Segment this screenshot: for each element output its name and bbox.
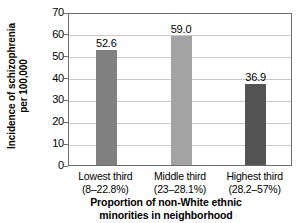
x-axis-category-name: Lowest third (78, 170, 132, 182)
y-axis-tick-mark (64, 122, 68, 123)
x-axis-category-range: (28.2–57%) (210, 183, 300, 196)
y-axis-tick-mark (64, 100, 68, 101)
y-axis-tick-mark (64, 13, 68, 14)
y-axis-tick-label: 60 (38, 29, 64, 40)
y-axis-tick-label: 30 (38, 94, 64, 105)
y-axis-tick-label: 50 (38, 51, 64, 62)
y-axis-title-line2: per 100,000 (18, 23, 30, 149)
x-axis-title: Proportion of non-White ethnic minoritie… (40, 196, 292, 221)
x-axis-category-label: Highest third(28.2–57%) (210, 170, 300, 196)
y-axis-tick-mark (64, 144, 68, 145)
y-axis-tick-mark (64, 34, 68, 35)
y-axis-tick-mark (64, 78, 68, 79)
y-axis-tick-mark (64, 56, 68, 57)
y-axis-tick-label: 20 (38, 116, 64, 127)
y-axis-tick-label: 70 (38, 7, 64, 18)
y-axis-tick-label: 40 (38, 73, 64, 84)
x-axis-category-name: Highest third (226, 170, 282, 182)
bar-chart-figure: Incidence of schizophrenia per 100,000 0… (0, 0, 308, 223)
x-axis-title-line2: minorities in neighborhood (40, 209, 292, 222)
x-axis-title-line1: Proportion of non-White ethnic (90, 196, 242, 208)
y-axis-tick-mark (64, 166, 68, 167)
x-axis-category-name: Middle third (154, 170, 206, 182)
y-axis-title-line1: Incidence of schizophrenia (6, 23, 17, 149)
y-axis-title: Incidence of schizophrenia per 100,000 (0, 0, 36, 172)
y-axis-tick-label: 10 (38, 138, 64, 149)
y-axis-tick-marks (68, 13, 292, 166)
